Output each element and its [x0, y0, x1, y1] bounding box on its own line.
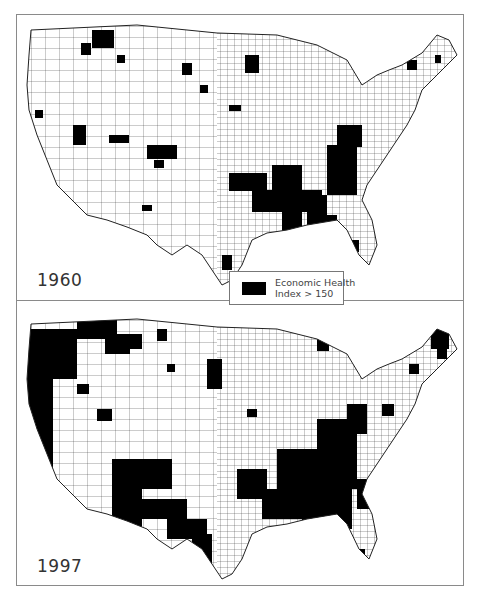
map-panel-1960: 1960: [17, 15, 463, 300]
us-county-map-1997: [17, 301, 463, 586]
year-label-1960: 1960: [37, 270, 82, 290]
us-county-map-1960: [17, 15, 463, 300]
map-legend: Economic Health Index > 150: [229, 271, 344, 305]
legend-text: Economic Health Index > 150: [275, 277, 355, 299]
legend-line-1: Economic Health: [275, 277, 355, 288]
legend-swatch-black: [242, 282, 266, 295]
year-label-1997: 1997: [37, 556, 82, 576]
legend-line-2: Index > 150: [275, 288, 355, 299]
map-panel-1997: 1997: [17, 301, 463, 585]
